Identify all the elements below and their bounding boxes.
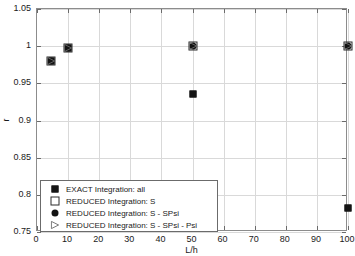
gridline-vertical (286, 9, 287, 230)
x-tick (286, 9, 287, 13)
data-point (64, 43, 73, 52)
legend-marker-icon (44, 195, 66, 207)
x-tick-label: 100 (339, 234, 354, 244)
legend-item: EXACT Integration: all (44, 183, 214, 195)
legend-marker-icon (44, 207, 66, 219)
x-tick (224, 226, 225, 230)
y-tick-label: 0.95 (0, 77, 31, 87)
y-tick (342, 83, 346, 84)
data-point (46, 57, 55, 66)
gridline-horizontal (37, 9, 346, 10)
legend-item-label: REDUCED Integration: S - SPsi (66, 209, 179, 218)
x-tick-label: 10 (62, 234, 72, 244)
y-axis-label: r (1, 108, 11, 132)
chart-legend: EXACT Integration: allREDUCED Integratio… (40, 180, 218, 232)
y-tick-label: 1.05 (0, 3, 31, 13)
gridline-horizontal (37, 158, 346, 159)
y-tick (342, 232, 346, 233)
x-tick-label: 30 (124, 234, 134, 244)
data-point (345, 205, 352, 212)
y-tick-label: 0.75 (0, 226, 31, 236)
x-tick (255, 9, 256, 13)
y-tick (37, 46, 41, 47)
x-tick-label: 70 (249, 234, 259, 244)
legend-item: REDUCED Integration: S - SPsi (44, 207, 214, 219)
y-tick (342, 195, 346, 196)
legend-item-label: EXACT Integration: all (66, 185, 145, 194)
x-tick (348, 9, 349, 13)
legend-item: REDUCED Integration: S (44, 195, 214, 207)
y-tick (37, 83, 41, 84)
x-tick (193, 9, 194, 13)
y-tick (37, 158, 41, 159)
x-tick-label: 40 (155, 234, 165, 244)
x-tick (286, 226, 287, 230)
gridline-horizontal (37, 121, 346, 122)
y-tick (37, 9, 41, 10)
x-tick (68, 9, 69, 13)
x-axis-label: L/h (172, 245, 212, 255)
legend-item-label: REDUCED Integration: S - SPsi - Psi (66, 221, 197, 230)
data-point (189, 91, 196, 98)
x-tick-label: 80 (280, 234, 290, 244)
y-tick (342, 158, 346, 159)
y-tick (37, 232, 41, 233)
x-tick (317, 9, 318, 13)
data-point (188, 42, 197, 51)
gridline-vertical (317, 9, 318, 230)
gridline-vertical (255, 9, 256, 230)
x-tick (37, 226, 38, 230)
legend-marker-icon (44, 219, 66, 231)
legend-marker-icon (44, 183, 66, 195)
x-tick-label: 90 (311, 234, 321, 244)
x-tick-label: 50 (186, 234, 196, 244)
y-tick-label: 1 (0, 40, 31, 50)
x-tick (255, 226, 256, 230)
x-tick (224, 9, 225, 13)
x-tick-label: 60 (218, 234, 228, 244)
x-tick (99, 9, 100, 13)
gridline-horizontal (37, 83, 346, 84)
legend-item-label: REDUCED Integration: S (66, 197, 155, 206)
gridline-vertical (224, 9, 225, 230)
gridline-horizontal (37, 232, 346, 233)
x-tick (161, 9, 162, 13)
y-tick (37, 121, 41, 122)
y-tick (342, 9, 346, 10)
legend-item: REDUCED Integration: S - SPsi - Psi (44, 219, 214, 231)
x-tick-label: 20 (93, 234, 103, 244)
x-tick (130, 9, 131, 13)
y-tick-label: 0.8 (0, 189, 31, 199)
x-tick (348, 226, 349, 230)
data-point (344, 42, 353, 51)
x-tick-label: 0 (33, 234, 38, 244)
y-tick (342, 121, 346, 122)
x-tick (317, 226, 318, 230)
y-tick-label: 0.85 (0, 152, 31, 162)
